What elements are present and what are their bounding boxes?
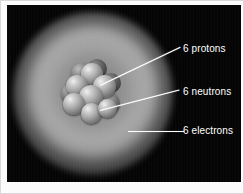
- figure-canvas: 6 protons 6 neutrons 6 electrons: [7, 5, 241, 182]
- leader-line-electrons: [128, 131, 184, 132]
- label-electrons: 6 electrons: [183, 125, 233, 136]
- label-neutrons: 6 neutrons: [183, 86, 231, 97]
- nucleus: [57, 57, 129, 129]
- label-protons: 6 protons: [183, 43, 226, 54]
- atom-diagram-image: 6 protons 6 neutrons 6 electrons: [0, 0, 244, 194]
